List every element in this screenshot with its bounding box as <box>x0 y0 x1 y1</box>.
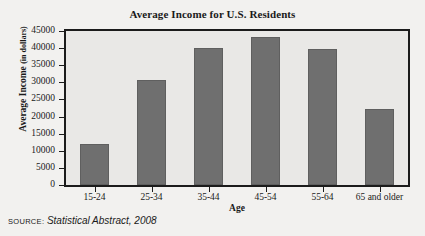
bar <box>80 144 110 185</box>
y-tick-label: 40000 <box>31 42 55 52</box>
source-label: SOURCE: <box>8 217 44 226</box>
plot-area <box>64 29 410 187</box>
bar <box>365 109 395 185</box>
chart-title: Average Income for U.S. Residents <box>0 8 425 20</box>
bar <box>308 49 338 185</box>
y-tick-label: 25000 <box>31 93 55 103</box>
bar <box>194 48 224 185</box>
x-tick-label: 15-24 <box>66 192 123 202</box>
y-tick-label: 45000 <box>31 25 55 35</box>
y-tick-label: 35000 <box>31 59 55 69</box>
y-axis-ticks: 4500040000350003000025000200001500010000… <box>0 29 64 187</box>
bars-layer <box>66 31 408 185</box>
x-axis-title: Age <box>64 203 410 213</box>
x-tick-label: 25-34 <box>123 192 180 202</box>
y-tick-label: 0 <box>50 179 55 189</box>
x-tick-label: 65 and older <box>351 192 408 202</box>
x-tick-label: 35-44 <box>180 192 237 202</box>
x-tick-label: 45-54 <box>237 192 294 202</box>
y-tick-label: 10000 <box>31 145 55 155</box>
bar <box>251 37 281 185</box>
y-tick-label: 15000 <box>31 128 55 138</box>
chart-figure: Average Income for U.S. Residents Averag… <box>0 0 425 236</box>
y-tick-label: 20000 <box>31 111 55 121</box>
y-tick-label: 30000 <box>31 76 55 86</box>
source-text: Statistical Abstract, 2008 <box>47 215 157 226</box>
source-line: SOURCE: Statistical Abstract, 2008 <box>8 215 157 226</box>
bar <box>137 80 167 185</box>
y-tick-label: 5000 <box>36 162 55 172</box>
x-tick-label: 55-64 <box>294 192 351 202</box>
